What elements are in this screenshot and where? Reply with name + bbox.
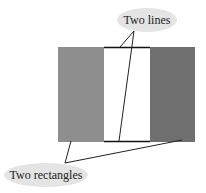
center-region [104, 47, 150, 142]
pointer-line [65, 140, 182, 163]
callout-label-rects: Two rectangles [10, 168, 83, 182]
diagram-canvas: Two lines Two rectangles [0, 0, 206, 193]
right-rectangle [150, 47, 195, 142]
callout-label-lines: Two lines [124, 13, 171, 27]
pointer-line [65, 141, 71, 163]
left-rectangle [58, 47, 104, 142]
